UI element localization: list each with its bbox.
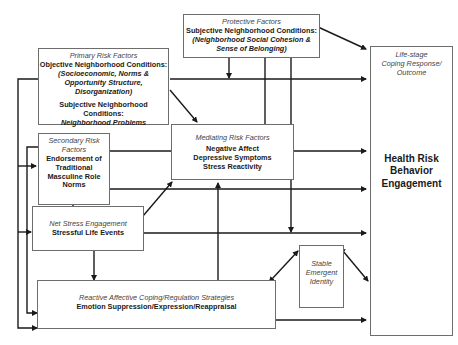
arrow-coping-identity — [272, 251, 298, 279]
secondary-risk-factors-box: Secondary Risk Factors Endorsement of Tr… — [38, 133, 110, 205]
arrow-identity-outcome — [343, 251, 368, 281]
arrow-primary-to-mediating — [170, 90, 197, 122]
arrow-stress-to-mediating — [143, 182, 172, 216]
stable-emergent-identity-box: Stable Emergent Identity — [299, 245, 344, 308]
stress-line1: Stressful Life Events — [33, 229, 143, 238]
mediating-line3: Stress Reactivity — [172, 163, 293, 172]
primary-line6: Neighborhood Problems — [39, 119, 168, 128]
primary-line5: Subjective Neighborhood Conditions: — [39, 101, 168, 119]
coping-line1: Emotion Suppression/Expression/Reapprais… — [38, 303, 275, 312]
outcome-line2: Behavior — [371, 165, 452, 178]
primary-line4: Disorganization) — [39, 88, 168, 97]
outcome-line1: Health Risk — [371, 153, 452, 166]
arrow-protective-to-outcome — [318, 27, 366, 49]
mediating-heading: Mediating Risk Factors — [172, 134, 293, 143]
primary-risk-factors-box: Primary Risk Factors Objective Neighborh… — [38, 48, 169, 125]
protective-factors-box: Protective Factors Subjective Neighborho… — [183, 14, 320, 58]
reactive-coping-strategies-box: Reactive Affective Coping/Regulation Str… — [37, 280, 276, 329]
left-rail-outer — [18, 79, 38, 328]
outcome-heading3: Outcome — [371, 69, 452, 78]
net-stress-engagement-box: Net Stress Engagement Stressful Life Eve… — [32, 206, 144, 251]
mediating-risk-factors-box: Mediating Risk Factors Negative Affect D… — [171, 124, 294, 180]
secondary-line4: Norms — [39, 181, 109, 190]
outcome-line3: Engagement — [371, 178, 452, 191]
identity-line3: Identity — [300, 278, 343, 287]
protective-line3: Sense of Belonging) — [184, 45, 319, 54]
outcome-box: Life-stage Coping Response/ Outcome Heal… — [370, 46, 453, 336]
